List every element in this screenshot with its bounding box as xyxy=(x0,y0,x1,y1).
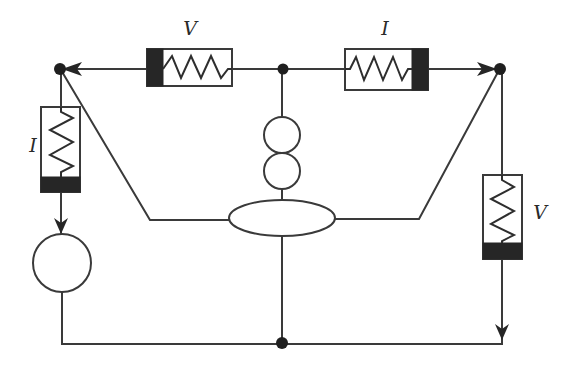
double-circle-center xyxy=(264,117,300,189)
wire-diagonal-left xyxy=(61,70,229,220)
circuit-diagram: V I I V xyxy=(0,0,575,370)
label-right: V xyxy=(533,201,549,223)
ellipse-center xyxy=(229,200,335,236)
node-top-left xyxy=(54,63,66,75)
label-left: I xyxy=(28,134,37,156)
resistor-top-right xyxy=(345,49,428,90)
wire-left-bottom xyxy=(62,292,282,344)
label-top-left: V xyxy=(183,17,199,39)
wire-right-bottom xyxy=(282,259,502,344)
resistor-right xyxy=(483,175,522,259)
source-circle-left xyxy=(33,234,91,292)
node-top-center xyxy=(278,64,289,75)
node-bottom-center xyxy=(276,337,288,349)
resistor-top-left xyxy=(147,49,232,86)
wire-diagonal-right xyxy=(335,72,498,219)
label-top-right: I xyxy=(380,17,389,39)
node-top-right xyxy=(494,63,506,75)
resistor-left xyxy=(41,107,80,192)
